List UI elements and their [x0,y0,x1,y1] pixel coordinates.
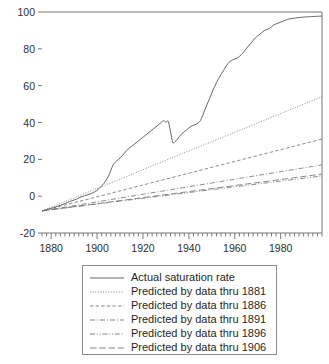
y-axis-tick-label: 80 [0,44,35,55]
legend-item[interactable]: Predicted by data thru 1906 [83,340,276,355]
series-line-2 [42,139,322,211]
x-axis-tick-label: 1920 [131,243,154,254]
legend-item-label: Predicted by data thru 1886 [131,300,266,311]
x-axis-tick-label: 1960 [223,243,246,254]
legend-item-label: Actual saturation rate [131,272,235,283]
y-axis-tick-label: 40 [0,117,35,128]
legend-item-label: Predicted by data thru 1906 [131,342,266,353]
series-line-5 [42,174,322,211]
y-axis-tick-label: 60 [0,80,35,91]
legend-item[interactable]: Predicted by data thru 1896 [83,326,276,341]
legend-line-swatch [89,285,125,299]
y-axis-tick-label: -20 [0,228,35,239]
legend-line-swatch [89,271,125,285]
plot-frame [42,12,322,233]
legend-item[interactable]: Predicted by data thru 1886 [83,298,276,313]
y-axis-tick-label: 20 [0,154,35,165]
legend-item-label: Predicted by data thru 1891 [131,314,266,325]
legend-line-swatch [89,299,125,313]
legend-item[interactable]: Predicted by data thru 1891 [83,312,276,327]
y-axis-tick-label: 0 [0,191,35,202]
legend-item[interactable]: Actual saturation rate [83,270,276,285]
legend-line-swatch [89,327,125,341]
data-series-group [42,16,322,211]
x-axis-tick-label: 1940 [177,243,200,254]
legend-line-swatch [89,341,125,355]
axes [38,12,322,239]
x-axis-tick-label: 1880 [39,243,62,254]
x-axis-tick-label: 1900 [85,243,108,254]
legend-item[interactable]: Predicted by data thru 1881 [83,284,276,299]
series-line-0 [42,16,322,211]
legend-item-label: Predicted by data thru 1896 [131,328,266,339]
saturation-rate-chart: -20020406080100188019001920194019601980 … [0,0,329,364]
x-axis-tick-label: 1980 [269,243,292,254]
legend-item-label: Predicted by data thru 1881 [131,286,266,297]
legend-line-swatch [89,313,125,327]
y-axis-tick-label: 100 [0,7,35,18]
series-line-3 [42,165,322,211]
chart-legend: Actual saturation ratePredicted by data … [82,265,277,355]
